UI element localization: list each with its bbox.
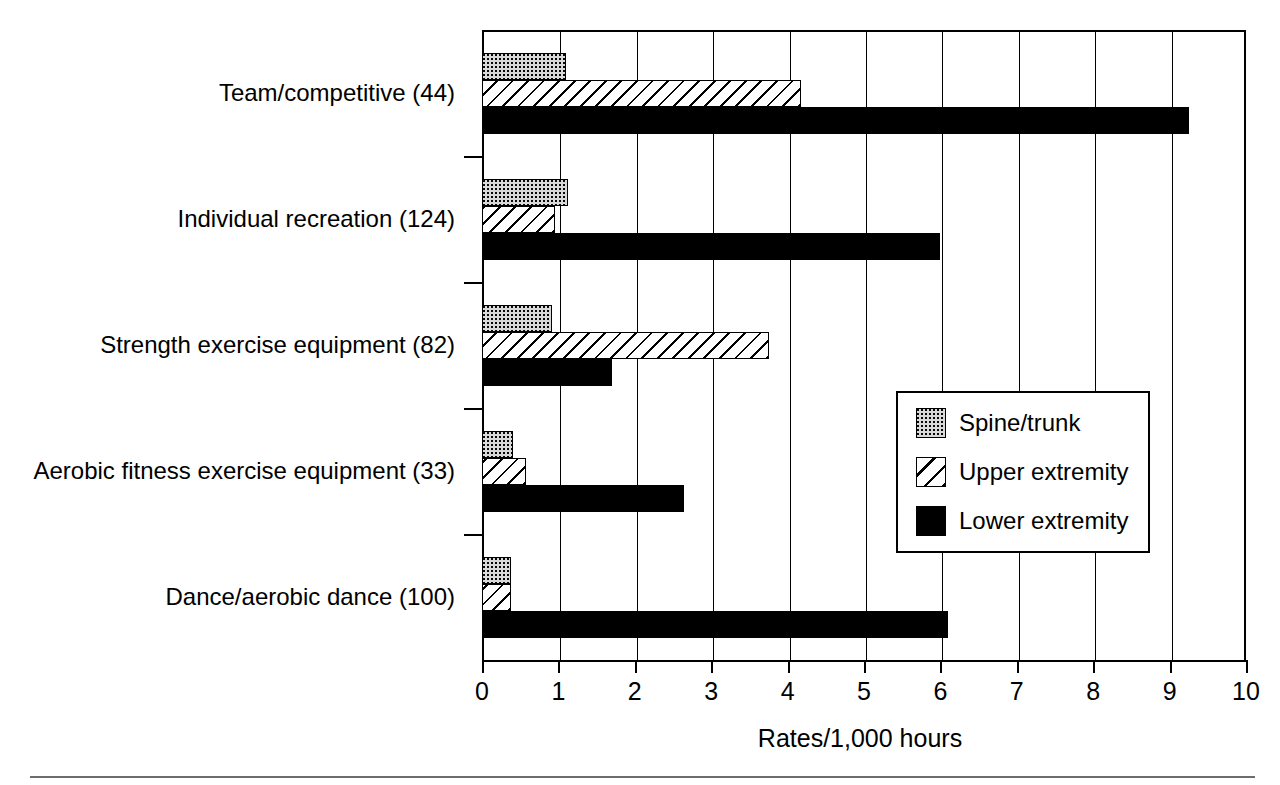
bar-strength-exercise-equipment-82-spine (482, 305, 552, 332)
x-axis-tick (558, 660, 560, 673)
x-axis-tick-label: 0 (452, 676, 512, 706)
legend-item-upper-extremity: Upper extremity (916, 456, 1128, 488)
x-axis-tick (940, 660, 942, 673)
category-label-team-competitive-44: Team/competitive (44) (219, 79, 455, 107)
x-axis-tick (788, 660, 790, 673)
x-axis-tick (1246, 660, 1248, 673)
x-axis-title-text: Rates/1,000 hours (318, 724, 962, 752)
bar-team-competitive-44-spine (482, 53, 566, 80)
x-axis-tick-label: 5 (834, 676, 894, 706)
footer-divider (30, 776, 1255, 778)
bar-dance-aerobic-dance-100-lower (482, 611, 948, 638)
x-axis-tick-label: 6 (910, 676, 970, 706)
legend-item-lower-extremity: Lower extremity (916, 505, 1128, 537)
bar-strength-exercise-equipment-82-upper (482, 332, 769, 359)
bar-team-competitive-44-lower (482, 107, 1189, 134)
legend-swatch-lower-extremity-icon (916, 506, 946, 536)
x-axis-tick (864, 660, 866, 673)
legend: Spine/trunk Upper extremity Lower extrem… (896, 391, 1150, 553)
x-axis-tick (482, 660, 484, 673)
x-axis-title: Rates/1,000 hours (0, 723, 1280, 753)
y-axis-tick (464, 156, 482, 158)
bar-individual-recreation-124-lower (482, 233, 940, 260)
bar-individual-recreation-124-spine (482, 179, 568, 206)
x-axis-tick (1017, 660, 1019, 673)
bar-strength-exercise-equipment-82-lower (482, 359, 612, 386)
legend-swatch-upper-extremity-icon (916, 457, 946, 487)
bar-aerobic-fitness-exercise-equipment-33-lower (482, 485, 684, 512)
legend-label-spine-trunk: Spine/trunk (959, 409, 1080, 437)
x-axis-tick-label: 4 (758, 676, 818, 706)
legend-label-lower-extremity: Lower extremity (959, 507, 1128, 535)
bar-aerobic-fitness-exercise-equipment-33-upper (482, 458, 526, 485)
x-axis-tick (635, 660, 637, 673)
y-axis-tick (464, 282, 482, 284)
category-label-strength-exercise-equipment-82: Strength exercise equipment (82) (100, 331, 455, 359)
x-axis-tick-label: 7 (987, 676, 1047, 706)
x-axis-tick-label: 1 (528, 676, 588, 706)
category-label-aerobic-fitness-exercise-equipment-33: Aerobic fitness exercise equipment (33) (33, 457, 455, 485)
x-axis-tick-label: 10 (1216, 676, 1276, 706)
x-axis-tick-label: 8 (1063, 676, 1123, 706)
x-axis-tick-label: 3 (681, 676, 741, 706)
y-axis-tick (464, 408, 482, 410)
x-axis-tick-label: 2 (605, 676, 665, 706)
category-label-individual-recreation-124: Individual recreation (124) (178, 205, 456, 233)
bar-aerobic-fitness-exercise-equipment-33-spine (482, 431, 513, 458)
x-axis-tick-label: 9 (1140, 676, 1200, 706)
x-axis-tick (711, 660, 713, 673)
bar-chart: 012345678910 Team/competitive (44)Indivi… (0, 0, 1280, 785)
x-axis-tick (1170, 660, 1172, 673)
legend-swatch-spine-trunk-icon (916, 408, 946, 438)
bar-dance-aerobic-dance-100-upper (482, 584, 511, 611)
bar-dance-aerobic-dance-100-spine (482, 557, 511, 584)
bar-team-competitive-44-upper (482, 80, 801, 107)
legend-label-upper-extremity: Upper extremity (959, 458, 1128, 486)
bar-individual-recreation-124-upper (482, 206, 555, 233)
x-axis-tick (1093, 660, 1095, 673)
legend-item-spine-trunk: Spine/trunk (916, 407, 1080, 439)
category-label-dance-aerobic-dance-100: Dance/aerobic dance (100) (165, 583, 455, 611)
y-axis-tick (464, 534, 482, 536)
